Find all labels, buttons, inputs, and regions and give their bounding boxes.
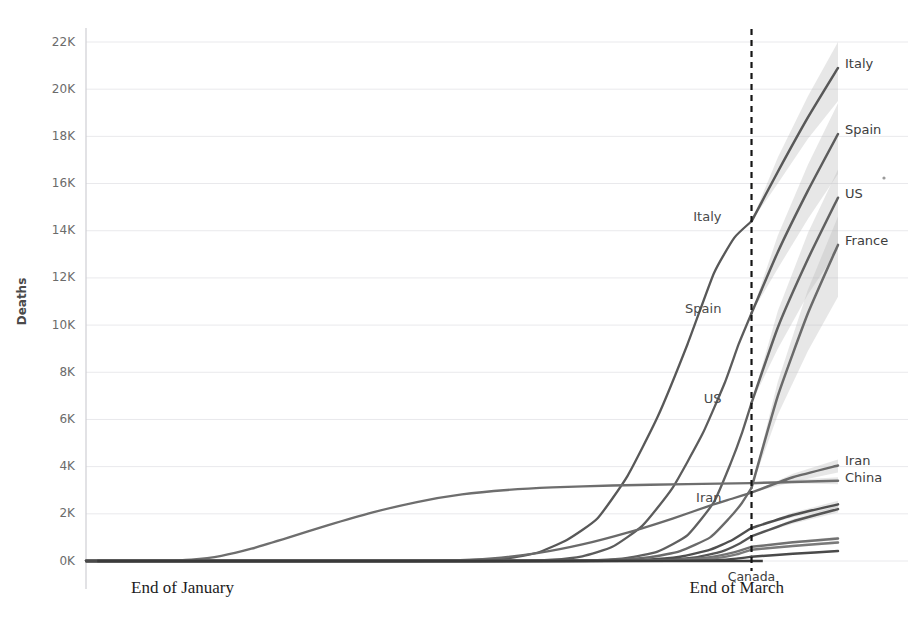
observed-series-lines-group [86,221,752,561]
y-axis-tick-label: 20K [52,82,76,96]
deaths-projection-line-chart: 0K2K4K6K8K10K12K14K16K18K20K22K Deaths I… [0,0,914,621]
x-axis-tick-labels-group: End of JanuaryEnd of March [131,578,784,597]
forecast-label-italy: Italy [845,56,874,71]
forecast-uncertainty-bands-group [752,42,839,557]
observed-line-china [86,483,752,561]
y-axis-tick-label: 8K [59,365,76,379]
forecast-label-iran: Iran [845,453,870,468]
forecast-label-spain: Spain [845,122,881,137]
right-series-labels-group: ItalySpainUSFranceIranChina [845,56,888,485]
forecast-line-canada [752,551,838,557]
forecast-band-france [752,217,839,488]
y-axis-tick-label: 0K [59,554,76,568]
x-axis-tick-label: End of March [690,578,785,597]
y-axis-tick-label: 16K [52,176,76,190]
y-axis-tick-label: 2K [59,506,76,520]
y-axis-tick-label: 10K [52,318,76,332]
forecast-label-france: France [845,233,888,248]
observed-line-italy [86,221,752,561]
y-axis-tick-label: 18K [52,129,76,143]
y-axis-tick-labels-group: 0K2K4K6K8K10K12K14K16K18K20K22K [52,35,76,568]
series-annotation-iran: Iran [696,490,721,505]
series-annotation-us: US [704,391,722,406]
inline-series-annotations-group: ItalySpainUSIranCanada [685,209,775,584]
forecast-label-china: China [845,470,882,485]
observed-line-spain [86,313,752,561]
y-axis-tick-label: 14K [52,223,76,237]
y-axis-tick-label: 4K [59,459,76,473]
observed-line-iran [86,493,752,561]
chart-page: 0K2K4K6K8K10K12K14K16K18K20K22K Deaths I… [0,0,914,621]
y-axis-tick-label: 22K [52,35,76,49]
y-axis-tick-label: 6K [59,412,76,426]
x-axis-tick-label: End of January [131,578,234,597]
series-annotation-spain: Spain [685,301,721,316]
series-annotation-italy: Italy [693,209,722,224]
y-axis-title: Deaths [15,278,29,326]
decorative-speck [882,176,885,179]
forecast-label-us: US [845,186,863,201]
y-axis-tick-label: 12K [52,270,76,284]
